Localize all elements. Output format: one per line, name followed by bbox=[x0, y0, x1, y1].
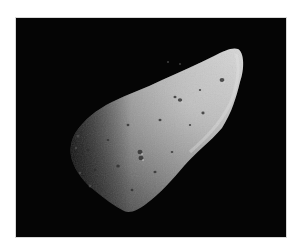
asteroid-photo bbox=[0, 0, 298, 246]
